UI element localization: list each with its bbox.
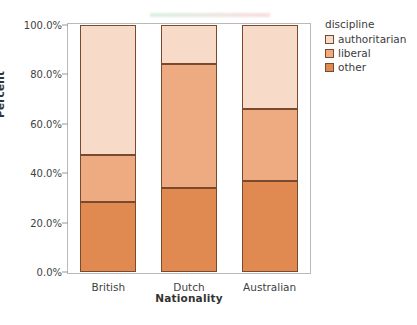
- bar-british[interactable]: [80, 25, 136, 272]
- legend-item-other[interactable]: other: [325, 61, 417, 73]
- y-axis-tick-mark: [62, 272, 68, 273]
- y-axis-tick-mark: [62, 74, 68, 75]
- legend-item-label: liberal: [338, 47, 371, 59]
- y-axis-tick-mark: [62, 173, 68, 174]
- y-axis-tick-label: 100.0%: [12, 20, 62, 31]
- bar-segment-authoritarian[interactable]: [161, 25, 217, 64]
- bar-segment-authoritarian[interactable]: [242, 25, 298, 109]
- legend-item-label: authoritarian: [338, 33, 406, 45]
- bar-dutch[interactable]: [161, 25, 217, 272]
- bar-segment-liberal[interactable]: [161, 64, 217, 188]
- legend-item-liberal[interactable]: liberal: [325, 47, 417, 59]
- y-axis-tick-mark: [62, 123, 68, 124]
- y-axis-tick-label: 80.0%: [12, 69, 62, 80]
- bar-segment-liberal[interactable]: [80, 155, 136, 201]
- bar-segment-other[interactable]: [161, 188, 217, 272]
- bar-segment-other[interactable]: [242, 181, 298, 272]
- legend-item-authoritarian[interactable]: authoritarian: [325, 33, 417, 45]
- legend-item-label: other: [338, 61, 366, 73]
- y-axis-tick-mark: [62, 25, 68, 26]
- bar-australian[interactable]: [242, 25, 298, 272]
- bar-segment-liberal[interactable]: [242, 109, 298, 181]
- y-axis-tick-label: 20.0%: [12, 217, 62, 228]
- stacked-bar-chart: Percent 100.0%80.0%60.0%40.0%20.0%0.0%Br…: [0, 0, 417, 325]
- y-axis-tick-label: 40.0%: [12, 168, 62, 179]
- plot-area: 100.0%80.0%60.0%40.0%20.0%0.0%BritishDut…: [68, 25, 310, 272]
- y-axis-title: Percent: [0, 71, 6, 118]
- y-axis-tick-label: 60.0%: [12, 118, 62, 129]
- legend-swatch-icon: [325, 49, 334, 58]
- legend-swatch-icon: [325, 63, 334, 72]
- legend: discipline authoritarianliberalother: [325, 18, 417, 75]
- legend-items: authoritarianliberalother: [325, 33, 417, 73]
- y-axis-tick-label: 0.0%: [12, 267, 62, 278]
- bar-segment-other[interactable]: [80, 202, 136, 272]
- bar-segment-authoritarian[interactable]: [80, 25, 136, 155]
- x-axis-title: Nationality: [68, 292, 310, 304]
- y-axis-tick-mark: [62, 222, 68, 223]
- scan-artifact: [150, 13, 270, 17]
- legend-title: discipline: [325, 18, 417, 30]
- legend-swatch-icon: [325, 35, 334, 44]
